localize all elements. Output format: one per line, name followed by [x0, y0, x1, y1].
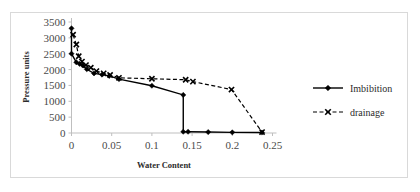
- data-point-imbibition: [181, 92, 186, 97]
- series-markers-drainage: [71, 32, 265, 135]
- series-markers-imbibition: [69, 26, 265, 135]
- x-tick-label: 0.15: [182, 139, 202, 151]
- chart-plot: 0500100015002000250030003500 00.050.10.1…: [0, 0, 420, 192]
- y-tick-label: 2500: [44, 48, 67, 60]
- x-tick-label: 0: [69, 139, 75, 151]
- legend-marker-imbibition: [325, 85, 331, 91]
- y-tick-label: 3500: [44, 16, 67, 28]
- figure-container: 0500100015002000250030003500 00.050.10.1…: [0, 0, 420, 192]
- legend-label[interactable]: drainage: [350, 107, 385, 118]
- legend-marker-diamond-icon: [325, 85, 331, 91]
- x-axis-tick-labels: 00.050.10.150.20.25: [69, 139, 283, 151]
- x-tick-label: 0.1: [145, 139, 159, 151]
- data-point-imbibition: [230, 130, 235, 135]
- data-point-imbibition: [181, 129, 186, 134]
- y-tick-label: 0: [60, 127, 66, 139]
- legend-label[interactable]: Imbibition: [350, 83, 392, 94]
- x-tick-label: 0.05: [102, 139, 122, 151]
- series-line-drainage: [73, 35, 262, 132]
- series-line-imbibition: [72, 28, 263, 132]
- x-axis-title: Water Content: [137, 160, 191, 170]
- x-tick-label: 0.2: [225, 139, 239, 151]
- axis-lines: [69, 18, 277, 136]
- data-series-layer: [69, 26, 265, 135]
- y-tick-label: 2000: [44, 64, 67, 76]
- y-tick-label: 500: [49, 111, 66, 123]
- y-tick-label: 1000: [44, 95, 67, 107]
- y-axis-tick-labels: 0500100015002000250030003500: [44, 16, 67, 139]
- y-axis-title: Pressure units: [21, 51, 31, 103]
- y-tick-label: 1500: [44, 79, 67, 91]
- data-point-imbibition: [69, 26, 74, 31]
- data-point-imbibition: [206, 129, 211, 134]
- y-tick-label: 3000: [44, 32, 67, 44]
- x-tick-label: 0.25: [263, 139, 283, 151]
- data-point-imbibition: [149, 83, 154, 88]
- chart-legend: Imbibitiondrainage: [313, 83, 392, 118]
- data-point-imbibition: [185, 129, 190, 134]
